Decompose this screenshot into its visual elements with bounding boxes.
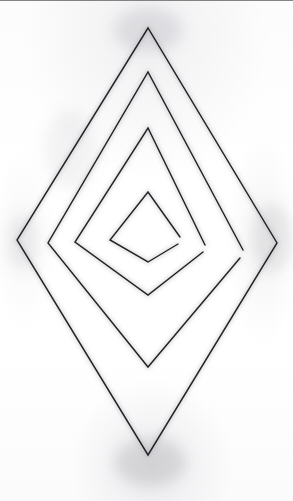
smudge-left-vertex [6,214,38,270]
pencil-ink-layer [17,28,277,455]
graphite-smudge-layer [6,8,292,486]
ring-4-inner [110,192,180,262]
smudge-bottom-apex [114,438,186,486]
diamond-spiral-drawing [0,0,293,501]
sketch-canvas [0,0,293,501]
